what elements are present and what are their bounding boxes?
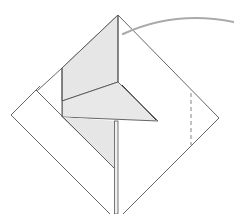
- center-stem: [115, 121, 119, 214]
- curved-arrow: [123, 18, 234, 34]
- origami-diagram: [0, 0, 234, 214]
